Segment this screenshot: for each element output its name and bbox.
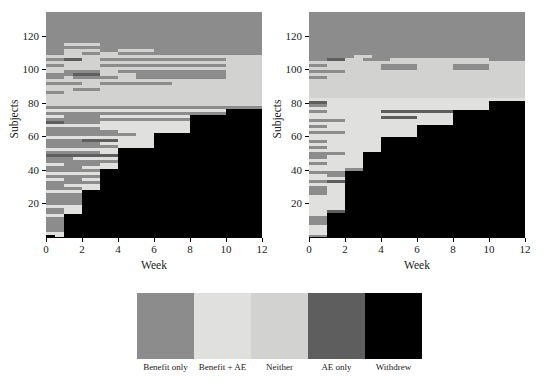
y-tick <box>305 170 309 171</box>
left-panel: Week Subjects 02468101220406080100120 <box>0 0 280 280</box>
y-tick-label: 80 <box>273 96 302 109</box>
legend-label-3: AE only <box>308 362 365 373</box>
y-tick <box>305 69 309 70</box>
y-tick <box>305 103 309 104</box>
y-tick <box>305 36 309 37</box>
y-tick-label: 120 <box>10 29 39 42</box>
right-panel-plot-area <box>309 12 525 237</box>
figure-root: Week Subjects 02468101220406080100120 We… <box>0 0 558 389</box>
x-tick <box>82 238 83 242</box>
y-tick-label: 80 <box>10 96 39 109</box>
y-tick <box>42 69 46 70</box>
y-tick-label: 20 <box>10 197 39 210</box>
x-tick <box>118 238 119 242</box>
legend-swatch-4 <box>365 293 422 359</box>
left-panel-x-axis-title: Week <box>46 259 262 271</box>
x-tick-label: 8 <box>450 243 456 256</box>
x-tick <box>489 238 490 242</box>
x-tick-label: 0 <box>43 243 49 256</box>
x-tick-label: 6 <box>414 243 420 256</box>
x-tick-label: 2 <box>79 243 85 256</box>
legend-labels: Benefit onlyBenefit + AENeitherAE onlyWi… <box>137 362 422 373</box>
x-tick <box>417 238 418 242</box>
x-tick <box>345 238 346 242</box>
legend-swatch-1 <box>194 293 251 359</box>
x-tick <box>525 238 526 242</box>
x-tick <box>154 238 155 242</box>
x-tick <box>453 238 454 242</box>
heatmap-row <box>309 12 525 16</box>
y-tick-label: 100 <box>273 63 302 76</box>
y-tick-label: 120 <box>273 29 302 42</box>
right-panel-x-axis-title: Week <box>309 259 525 271</box>
right-panel: Week Subjects 02468101220406080100120 <box>278 0 558 280</box>
legend-label-2: Neither <box>251 362 308 373</box>
legend-label-1: Benefit + AE <box>194 362 251 373</box>
y-tick <box>305 136 309 137</box>
x-tick <box>190 238 191 242</box>
x-tick-label: 0 <box>306 243 312 256</box>
x-tick <box>381 238 382 242</box>
x-tick-label: 12 <box>257 243 268 256</box>
y-tick <box>42 203 46 204</box>
y-tick <box>42 36 46 37</box>
x-tick-label: 2 <box>342 243 348 256</box>
x-tick-label: 12 <box>520 243 531 256</box>
legend-swatches <box>137 293 422 359</box>
x-tick <box>226 238 227 242</box>
legend-swatch-3 <box>308 293 365 359</box>
legend-swatch-0 <box>137 293 194 359</box>
x-tick-label: 10 <box>221 243 232 256</box>
y-tick <box>42 136 46 137</box>
x-tick <box>262 238 263 242</box>
legend-label-4: Withdrew <box>365 362 422 373</box>
y-tick-label: 20 <box>273 197 302 210</box>
heatmap-cell-benefit_only <box>309 12 525 16</box>
x-tick-label: 4 <box>115 243 121 256</box>
legend-label-0: Benefit only <box>137 362 194 373</box>
left-panel-plot-area <box>46 12 262 237</box>
y-tick <box>305 203 309 204</box>
heatmap-cell-benefit_only <box>46 12 262 16</box>
legend-swatch-2 <box>251 293 308 359</box>
y-tick <box>42 103 46 104</box>
x-tick-label: 8 <box>187 243 193 256</box>
y-tick-label: 40 <box>273 163 302 176</box>
x-tick <box>309 238 310 242</box>
y-tick-label: 40 <box>10 163 39 176</box>
x-tick <box>46 238 47 242</box>
heatmap-row <box>46 12 262 16</box>
x-tick-label: 4 <box>378 243 384 256</box>
right-panel-y-axis-title: Subjects <box>271 79 283 159</box>
y-tick-label: 100 <box>10 63 39 76</box>
left-panel-y-axis-title: Subjects <box>8 79 20 159</box>
y-tick <box>42 170 46 171</box>
x-tick-label: 6 <box>151 243 157 256</box>
y-tick-label: 60 <box>10 130 39 143</box>
x-tick-label: 10 <box>484 243 495 256</box>
y-tick-label: 60 <box>273 130 302 143</box>
